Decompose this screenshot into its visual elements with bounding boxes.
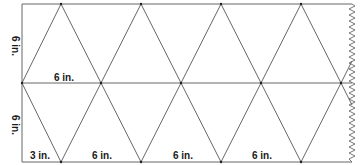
label-middle-width: 6 in. bbox=[54, 72, 74, 83]
triangle-grid-diagram: 6 in. 6 in. 6 in. 3 in. 6 in. 6 in. 6 in… bbox=[0, 0, 363, 165]
label-top-height: 6 in. bbox=[10, 36, 21, 56]
label-bottom-3: 6 in. bbox=[252, 150, 272, 161]
label-bottom-2: 6 in. bbox=[173, 150, 193, 161]
label-bottom-half: 3 in. bbox=[30, 150, 50, 161]
label-bottom-1: 6 in. bbox=[92, 150, 112, 161]
label-bottom-height: 6 in. bbox=[10, 115, 21, 135]
